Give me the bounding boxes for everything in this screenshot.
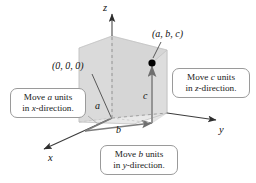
origin-label: (0, 0, 0)	[52, 60, 84, 71]
x-axis-label: x	[48, 152, 53, 163]
callout-z-line2: in z-direction.	[177, 83, 245, 94]
callout-z-line1: Move c units	[177, 72, 245, 83]
target-point-label: (a, b, c)	[152, 28, 183, 39]
segment-c-label: c	[143, 90, 147, 101]
segment-a-label: a	[95, 100, 100, 111]
z-axis-label: z	[103, 2, 107, 13]
callout-x-direction: Move a units in x-direction.	[10, 88, 86, 118]
callout-y-line2: in y-direction.	[105, 160, 173, 171]
callout-y-direction: Move b units in y-direction.	[100, 145, 178, 175]
segment-b-label: b	[116, 124, 121, 135]
callout-x-line1: Move a units	[15, 92, 81, 103]
three-d-coordinate-diagram: z y x (0, 0, 0) (a, b, c) a b c Move a u…	[0, 0, 256, 183]
point-marker	[148, 59, 155, 66]
y-axis-label: y	[219, 124, 224, 135]
callout-z-direction: Move c units in z-direction.	[172, 68, 250, 98]
callout-y-line1: Move b units	[105, 149, 173, 160]
callout-x-line2: in x-direction.	[15, 103, 81, 114]
